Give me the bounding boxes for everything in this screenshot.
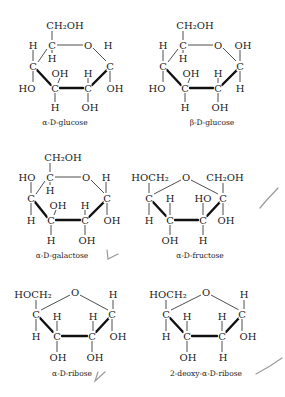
atom-label: H <box>179 53 188 64</box>
atom-label: H <box>81 200 90 211</box>
structure-alpha-D-glucose: CH₂OHHCOHHCCOHHHOCCOHHOHα-D-glucose <box>19 20 124 128</box>
structure-2-deoxy-alpha-D-ribose: HOCH₂OHCHHCHCCOHOHH2-deoxy-α-D-ribose <box>149 287 256 379</box>
atom-label: OH <box>82 102 99 113</box>
atom-label: H <box>46 185 55 196</box>
atom-label: H <box>27 215 36 226</box>
atom-label: C <box>53 331 61 342</box>
atom-label: OH <box>50 352 67 363</box>
atom-label: H <box>214 68 223 79</box>
atom-label: CH₂OH <box>176 20 214 31</box>
atom-label: H <box>236 83 245 94</box>
structure-name: α-D-glucose <box>42 118 88 127</box>
bond <box>36 181 45 194</box>
atom-label: H <box>162 331 171 342</box>
atom-label: O <box>202 287 210 298</box>
atom-label: OH <box>212 102 229 113</box>
atom-label: C <box>48 40 56 51</box>
atom-label: C <box>81 215 89 226</box>
atom-label: H <box>183 311 192 322</box>
atom-label: OH <box>79 235 96 246</box>
atom-label: OH <box>180 352 197 363</box>
atom-label: H <box>53 311 62 322</box>
atom-label: OH <box>235 40 252 51</box>
bold-bond <box>92 70 107 85</box>
atom-label: C <box>51 83 59 94</box>
bold-bond <box>226 318 239 332</box>
bold-bond <box>170 318 183 332</box>
atom-label: H <box>84 68 93 79</box>
atom-label: OH <box>162 235 179 246</box>
atom-label: H <box>218 311 227 322</box>
atom-label: H <box>199 235 208 246</box>
atom-label: O <box>84 40 92 51</box>
atom-label: HO <box>195 193 212 204</box>
atom-label: OH <box>52 68 69 79</box>
atom-label: OH <box>110 331 127 342</box>
atom-label: H <box>145 215 154 226</box>
atom-label: O <box>71 287 79 298</box>
structure-name: α-D-ribose <box>52 369 92 378</box>
bold-bond <box>89 202 104 217</box>
atom-label: H <box>29 40 38 51</box>
bold-bond <box>167 70 181 85</box>
check-mark <box>95 372 105 381</box>
check-mark <box>256 358 282 374</box>
structure-name: α-D-galactose <box>36 251 89 260</box>
atom-label: C <box>219 193 227 204</box>
atom-label: C <box>84 83 92 94</box>
atom-label: C <box>29 61 37 72</box>
check-mark <box>260 188 278 208</box>
atom-label: OH <box>50 200 67 211</box>
atom-label: O <box>182 172 190 183</box>
atom-label: H <box>240 289 249 300</box>
atom-label: CH₂OH <box>44 152 82 163</box>
atom-label: C <box>162 309 170 320</box>
atom-label: C <box>236 61 244 72</box>
bold-bond <box>37 70 51 85</box>
atom-label: C <box>32 309 40 320</box>
structure-name: β-D-glucose <box>190 118 235 127</box>
atom-label: HO <box>149 83 166 94</box>
atom-label: HO <box>19 172 36 183</box>
atom-label: HOCH₂ <box>149 289 186 300</box>
atom-label: H <box>104 40 113 51</box>
atom-label: C <box>103 193 111 204</box>
atom-label: H <box>109 289 118 300</box>
atom-label: C <box>106 61 114 72</box>
atom-label: C <box>218 331 226 342</box>
atom-label: C <box>179 40 187 51</box>
atom-label: OH <box>87 352 104 363</box>
structure-name: 2-deoxy-α-D-ribose <box>170 369 242 378</box>
bold-bond <box>153 202 166 216</box>
bold-bond <box>96 318 109 332</box>
atom-label: C <box>183 331 191 342</box>
structure-alpha-D-fructose: HOCH₂OCH₂OHCHHOCHCCOHOHHα-D-fructose <box>131 172 244 261</box>
check-mark <box>107 250 118 259</box>
atom-label: H <box>48 53 57 64</box>
atom-label: H <box>47 235 56 246</box>
bold-bond <box>35 202 47 217</box>
atom-label: C <box>181 83 189 94</box>
atom-label: H <box>159 40 168 51</box>
atom-label: C <box>27 193 35 204</box>
atom-label: CH₂OH <box>46 20 84 31</box>
atom-label: HO <box>19 83 36 94</box>
atom-label: H <box>102 172 111 183</box>
structure-alpha-D-galactose: CH₂OHHOCOHHCCOHHHCCOHHOHα-D-galactose <box>19 152 121 261</box>
atom-label: HOCH₂ <box>131 172 168 183</box>
atom-label: OH <box>104 215 121 226</box>
atom-label: H <box>181 102 190 113</box>
bond <box>38 49 47 62</box>
atom-label: H <box>219 352 228 363</box>
atom-label: OH <box>218 215 235 226</box>
atom-label: H <box>166 193 175 204</box>
bold-bond <box>40 318 53 332</box>
atom-label: C <box>47 215 55 226</box>
bond <box>168 49 178 62</box>
atom-label: OH <box>183 68 200 79</box>
atom-label: C <box>238 309 246 320</box>
structure-alpha-D-ribose: HOCH₂OHCHHCHCCOHOHOHα-D-ribose <box>14 287 126 379</box>
sugar-structures-diagram: CH₂OHHCOHHCCOHHHOCCOHHOHα-D-glucoseCH₂OH… <box>0 0 285 397</box>
atom-label: C <box>88 331 96 342</box>
atom-label: C <box>145 193 153 204</box>
